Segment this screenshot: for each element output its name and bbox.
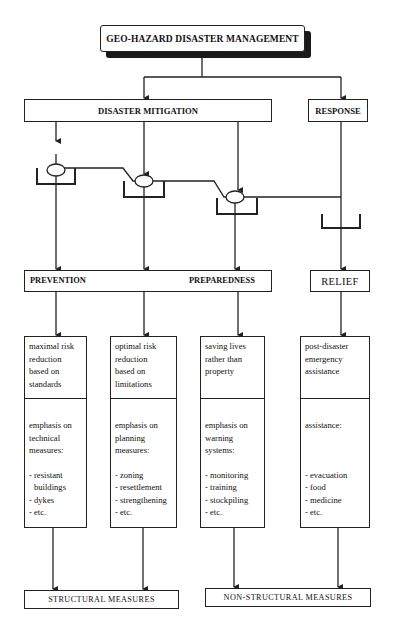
column-goal: optimal risk reduction based on limitati… bbox=[111, 337, 176, 399]
column-measures: emphasis on warning systems: - monitorin… bbox=[201, 399, 264, 519]
column-prevention: maximal risk reduction based on standard… bbox=[24, 336, 87, 528]
emphasis-line: warning bbox=[205, 432, 264, 445]
measure-item: - etc. bbox=[115, 506, 176, 519]
goal-line: emergency bbox=[305, 353, 369, 366]
measure-item: - zoning bbox=[115, 469, 176, 482]
page-title: GEO-HAZARD DISASTER MANAGEMENT bbox=[100, 25, 305, 52]
goal-line: maximal risk bbox=[29, 340, 86, 353]
non-structural-measures-box: NON-STRUCTURAL MEASURES bbox=[205, 588, 371, 607]
goal-line: reduction bbox=[29, 353, 86, 366]
relief-label: RELIEF bbox=[321, 276, 358, 287]
measure-item: - strengthening bbox=[115, 494, 176, 507]
measure-item: - resistant bbox=[29, 469, 86, 482]
measure-item: - evacuation bbox=[305, 469, 369, 482]
measure-item: buildings bbox=[29, 481, 86, 494]
emphasis-line: emphasis on bbox=[115, 419, 176, 432]
goal-line: saving lives bbox=[205, 340, 264, 353]
column-goal: post-disaster emergency assistance bbox=[301, 337, 369, 399]
connector-lines bbox=[0, 0, 395, 631]
column-goal: saving lives rather than property bbox=[201, 337, 264, 399]
goal-line: rather than bbox=[205, 353, 264, 366]
emphasis-line: systems: bbox=[205, 444, 264, 457]
structural-measures-label: STRUCTURAL MEASURES bbox=[48, 595, 155, 604]
column-preparedness: saving lives rather than property emphas… bbox=[200, 336, 265, 528]
disaster-mitigation-box: DISASTER MITIGATION bbox=[24, 99, 272, 122]
measure-item: - dykes bbox=[29, 494, 86, 507]
column-prevention-preparedness: optimal risk reduction based on limitati… bbox=[110, 336, 177, 528]
structural-measures-box: STRUCTURAL MEASURES bbox=[24, 590, 179, 609]
column-measures: emphasis on technical measures: - resist… bbox=[25, 399, 86, 519]
emphasis-line: measures: bbox=[29, 444, 86, 457]
emphasis-line: emphasis on bbox=[29, 419, 86, 432]
preparedness-label: PREPAREDNESS bbox=[189, 276, 255, 285]
measure-item: - etc. bbox=[29, 506, 86, 519]
measure-item: - stockpiling bbox=[205, 494, 264, 507]
bracket-cup-icon bbox=[37, 168, 360, 228]
column-measures: emphasis on planning measures: - zoning … bbox=[111, 399, 176, 519]
goal-line: limitations bbox=[115, 378, 176, 391]
measure-item: - etc. bbox=[205, 506, 264, 519]
prevention-label: PREVENTION bbox=[30, 276, 86, 285]
goal-line: optimal risk bbox=[115, 340, 176, 353]
column-goal: maximal risk reduction based on standard… bbox=[25, 337, 86, 399]
relief-box: RELIEF bbox=[310, 270, 370, 292]
non-structural-measures-label: NON-STRUCTURAL MEASURES bbox=[224, 593, 353, 602]
goal-line: standards bbox=[29, 378, 86, 391]
goal-line: reduction bbox=[115, 353, 176, 366]
title-text: GEO-HAZARD DISASTER MANAGEMENT bbox=[106, 34, 299, 44]
measure-item: - food bbox=[305, 481, 369, 494]
goal-line: post-disaster bbox=[305, 340, 369, 353]
emphasis-line: technical bbox=[29, 432, 86, 445]
response-box: RESPONSE bbox=[308, 99, 368, 122]
emphasis-line: emphasis on bbox=[205, 419, 264, 432]
measure-item: - monitoring bbox=[205, 469, 264, 482]
emphasis-line: assistance: bbox=[305, 419, 369, 432]
prevention-preparedness-box: PREVENTION PREPAREDNESS bbox=[24, 270, 272, 292]
measure-item: - training bbox=[205, 481, 264, 494]
column-measures: assistance: - evacuation - food - medici… bbox=[301, 399, 369, 519]
emphasis-line: planning bbox=[115, 432, 176, 445]
emphasis-line: measures: bbox=[115, 444, 176, 457]
measure-item: - etc. bbox=[305, 506, 369, 519]
measure-item: - medicine bbox=[305, 494, 369, 507]
measure-item: - resettlement bbox=[115, 481, 176, 494]
disaster-mitigation-label: DISASTER MITIGATION bbox=[98, 106, 198, 116]
response-label: RESPONSE bbox=[315, 106, 360, 116]
column-relief: post-disaster emergency assistance assis… bbox=[300, 336, 370, 528]
goal-line: property bbox=[205, 365, 264, 378]
goal-line: based on bbox=[29, 365, 86, 378]
goal-line: assistance bbox=[305, 365, 369, 378]
goal-line: based on bbox=[115, 365, 176, 378]
